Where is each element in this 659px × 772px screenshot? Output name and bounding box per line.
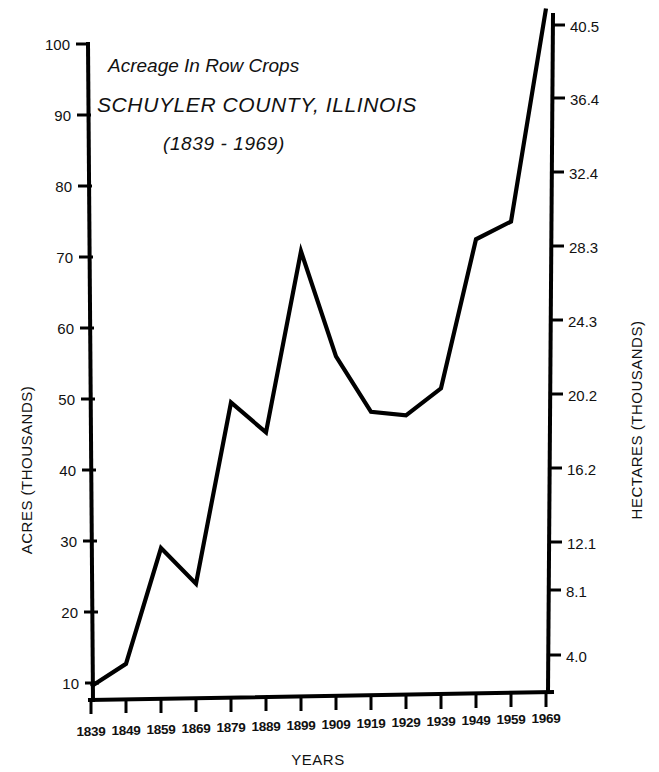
y-tick-label-80: 80 bbox=[55, 178, 72, 195]
y-tick-label-50: 50 bbox=[58, 391, 75, 408]
x-tick-label-1959: 1959 bbox=[497, 712, 526, 727]
x-tick-label-1969: 1969 bbox=[532, 711, 561, 726]
y-axis-left-title: ACRES (THOUSANDS) bbox=[18, 386, 35, 555]
y2-tick-label-40-5: 40.5 bbox=[570, 18, 599, 35]
x-tick-label-1919: 1919 bbox=[357, 716, 386, 731]
x-tick-label-1859: 1859 bbox=[147, 722, 176, 737]
y-tick-label-40: 40 bbox=[59, 462, 76, 479]
y2-tick-label-32-4: 32.4 bbox=[569, 165, 598, 182]
y-axis-right-title: HECTARES (THOUSANDS) bbox=[628, 321, 645, 520]
chart-title-block: Acreage In Row Crops SCHUYLER COUNTY, IL… bbox=[97, 55, 417, 154]
y2-tick-label-12-1: 12.1 bbox=[567, 535, 596, 552]
x-tick-label-1909: 1909 bbox=[322, 717, 351, 732]
chart-container: Acreage In Row Crops SCHUYLER COUNTY, IL… bbox=[0, 0, 659, 772]
acreage-row-crops-line-chart: Acreage In Row Crops SCHUYLER COUNTY, IL… bbox=[0, 0, 659, 772]
x-tick-label-1869: 1869 bbox=[182, 721, 211, 736]
x-axis-tick-labels: 1839 1849 1859 1869 1879 1889 1899 1909 … bbox=[77, 711, 561, 739]
y-tick-label-60: 60 bbox=[57, 320, 74, 337]
y-axis-right-tick-labels: 40.5 36.4 32.4 28.3 24.3 20.2 16.2 12.1 … bbox=[566, 18, 599, 665]
x-tick-label-1889: 1889 bbox=[252, 719, 281, 734]
chart-title-line-2: SCHUYLER COUNTY, ILLINOIS bbox=[97, 93, 417, 116]
y2-tick-label-20-2: 20.2 bbox=[568, 387, 597, 404]
y2-tick-label-4-0: 4.0 bbox=[566, 648, 587, 665]
x-tick-label-1939: 1939 bbox=[427, 714, 456, 729]
chart-title-line-3: (1839 - 1969) bbox=[163, 133, 285, 154]
x-tick-label-1899: 1899 bbox=[287, 718, 316, 733]
y2-tick-label-36-4: 36.4 bbox=[570, 91, 599, 108]
x-tick-label-1949: 1949 bbox=[462, 713, 491, 728]
y2-tick-label-24-3: 24.3 bbox=[568, 313, 597, 330]
y-tick-label-70: 70 bbox=[56, 249, 73, 266]
y-axis-left-line bbox=[88, 44, 93, 700]
chart-title-line-1: Acreage In Row Crops bbox=[107, 55, 300, 76]
x-axis-title: YEARS bbox=[291, 751, 344, 768]
y-tick-label-90: 90 bbox=[54, 107, 71, 124]
x-tick-label-1879: 1879 bbox=[217, 720, 246, 735]
y2-tick-label-16-2: 16.2 bbox=[567, 461, 596, 478]
y-tick-label-20: 20 bbox=[61, 604, 78, 621]
y2-tick-label-28-3: 28.3 bbox=[569, 239, 598, 256]
y2-tick-label-8-1: 8.1 bbox=[566, 583, 587, 600]
y-axis-left-tick-labels: 100 90 80 70 60 50 40 30 20 10 bbox=[45, 36, 79, 692]
x-axis-line bbox=[90, 692, 552, 700]
x-tick-label-1849: 1849 bbox=[112, 723, 141, 738]
y-tick-label-100: 100 bbox=[45, 36, 70, 53]
y-tick-label-10: 10 bbox=[62, 675, 79, 692]
x-tick-label-1839: 1839 bbox=[77, 724, 106, 739]
x-tick-label-1929: 1929 bbox=[392, 715, 421, 730]
y-tick-label-30: 30 bbox=[60, 533, 77, 550]
